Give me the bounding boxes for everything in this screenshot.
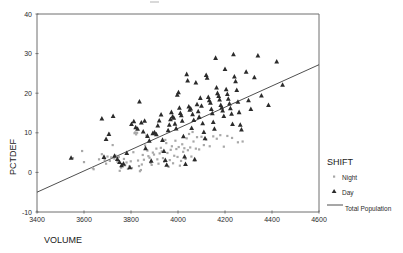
data-point-day [252, 75, 257, 80]
data-point-day [111, 114, 116, 119]
data-point-day [197, 114, 202, 119]
data-point-night [142, 154, 144, 156]
data-point-night [81, 150, 83, 152]
data-point-night [195, 148, 197, 150]
y-tick-label: 0 [28, 169, 32, 176]
data-point-day [221, 114, 226, 119]
data-point-day [223, 66, 228, 71]
data-point-day [107, 131, 112, 136]
data-point-day [159, 112, 164, 117]
y-axis-title: PCTDEF [8, 138, 18, 175]
data-point-day [206, 95, 211, 100]
data-point-night [130, 160, 132, 162]
x-tick-label: 4400 [264, 216, 280, 223]
data-point-night [219, 134, 221, 136]
data-point-day [229, 111, 234, 116]
legend-item-label: Night [342, 174, 357, 182]
data-point-night [83, 161, 85, 163]
x-tick-label: 4000 [170, 216, 186, 223]
legend-item-label: Total Population [345, 205, 392, 213]
data-point-day [180, 118, 185, 123]
data-point-night [188, 133, 190, 135]
data-point-night [141, 163, 143, 165]
data-point-night [119, 170, 121, 172]
data-point-night [152, 152, 154, 154]
data-point-night [125, 161, 127, 163]
legend-item-night[interactable]: Night [333, 174, 357, 182]
data-point-day [228, 106, 233, 111]
data-point-day [176, 90, 181, 95]
data-point-night [138, 165, 140, 167]
legend-title: SHIFT [327, 157, 354, 167]
data-point-night [191, 131, 193, 133]
data-point-day [213, 55, 218, 60]
legend-item-day[interactable]: Day [332, 189, 355, 197]
x-tick-label: 4200 [217, 216, 233, 223]
legend-item-total-population[interactable]: Total Population [327, 205, 392, 213]
data-point-day [157, 118, 162, 123]
data-point-day [201, 129, 206, 134]
data-point-night [134, 131, 136, 133]
data-point-day [231, 52, 236, 57]
regression-line [37, 65, 319, 193]
data-point-day [246, 98, 251, 103]
data-point-day [238, 122, 243, 127]
data-point-day [127, 165, 132, 170]
y-tick-label: 30 [24, 50, 32, 57]
data-point-night [178, 146, 180, 148]
x-tick-label: 3800 [123, 216, 139, 223]
data-point-night [104, 159, 106, 161]
data-point-day [195, 102, 200, 107]
data-point-night [174, 140, 176, 142]
data-point-night [105, 163, 107, 165]
data-point-day [224, 87, 229, 92]
data-point-night [148, 157, 150, 159]
data-point-day [196, 109, 201, 114]
data-point-day [256, 53, 261, 58]
data-point-day [142, 118, 147, 123]
data-point-day [198, 95, 203, 100]
data-point-night [226, 135, 228, 137]
data-point-night [172, 162, 174, 164]
data-point-night [171, 145, 173, 147]
series-day [69, 52, 285, 169]
data-point-day [104, 137, 109, 142]
x-tick-label: 4600 [311, 216, 327, 223]
data-point-day [230, 121, 235, 126]
data-point-day [199, 103, 204, 108]
plot-svg: -100102030403400360038004000420044004600… [0, 0, 403, 253]
data-point-night [180, 160, 182, 162]
data-point-night [209, 145, 211, 147]
data-point-night [200, 136, 202, 138]
data-point-day [184, 72, 189, 77]
data-point-night [98, 158, 100, 160]
data-point-day [192, 157, 197, 162]
data-point-night [162, 157, 164, 159]
data-point-night [160, 147, 162, 149]
data-point-day [234, 87, 239, 92]
data-point-night [159, 152, 161, 154]
data-point-day [210, 111, 215, 116]
y-tick-label: 40 [24, 11, 32, 18]
data-point-night [192, 140, 194, 142]
top-artifact-mark [150, 1, 159, 3]
data-point-night [113, 157, 115, 159]
data-point-day [236, 99, 241, 104]
data-point-night [93, 168, 95, 170]
data-point-night [140, 169, 142, 171]
data-point-day [155, 123, 160, 128]
data-point-night [198, 148, 200, 150]
data-point-day [259, 93, 264, 98]
data-point-night [156, 158, 158, 160]
data-point-day [143, 146, 148, 151]
data-point-day [212, 126, 217, 131]
data-point-night [187, 149, 189, 151]
data-point-night [212, 135, 214, 137]
data-point-night [164, 139, 166, 141]
data-point-day [173, 121, 178, 126]
data-point-night [143, 159, 145, 161]
data-point-day [225, 91, 230, 96]
axis-label-layer: VOLUMEPCTDEF [8, 138, 82, 245]
data-point-day [203, 136, 208, 141]
legend-marker-night-icon [333, 176, 335, 178]
